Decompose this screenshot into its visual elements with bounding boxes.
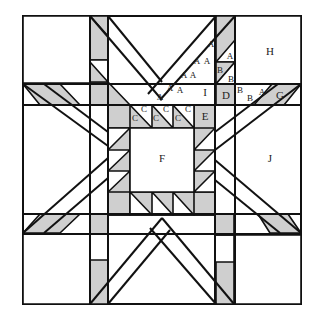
label-A: A bbox=[190, 70, 197, 80]
label-A: A bbox=[177, 85, 184, 95]
label-A: A bbox=[181, 70, 188, 80]
label-B: B bbox=[228, 74, 234, 84]
label-C: C bbox=[185, 104, 191, 114]
label-I: I bbox=[203, 86, 207, 98]
label-A: A bbox=[208, 39, 215, 49]
label-H: H bbox=[266, 45, 274, 57]
label-B: B bbox=[247, 93, 253, 103]
label-J: J bbox=[268, 152, 273, 164]
label-B: B bbox=[217, 65, 223, 75]
label-A: A bbox=[204, 56, 211, 66]
label-B: B bbox=[237, 85, 243, 95]
label-A: A bbox=[227, 51, 234, 61]
label-C: C bbox=[153, 113, 159, 123]
label-A: A bbox=[167, 83, 174, 93]
label-C: C bbox=[175, 113, 181, 123]
label-C: C bbox=[141, 104, 147, 114]
label-E: E bbox=[202, 110, 209, 122]
label-A: A bbox=[259, 87, 266, 97]
label-F: F bbox=[159, 152, 165, 164]
label-C: C bbox=[132, 113, 138, 123]
label-A: A bbox=[157, 92, 164, 102]
corner-square-top-left bbox=[23, 16, 90, 83]
corner-square-bottom-left bbox=[23, 234, 90, 304]
corner-square-bottom-right bbox=[234, 235, 301, 304]
quilt-block-diagram: A A A A A A A A A A B B B B C C C C C C … bbox=[0, 0, 316, 318]
label-C: C bbox=[163, 104, 169, 114]
label-A: A bbox=[194, 56, 201, 66]
label-D: D bbox=[222, 89, 230, 101]
label-G: G bbox=[276, 89, 284, 101]
